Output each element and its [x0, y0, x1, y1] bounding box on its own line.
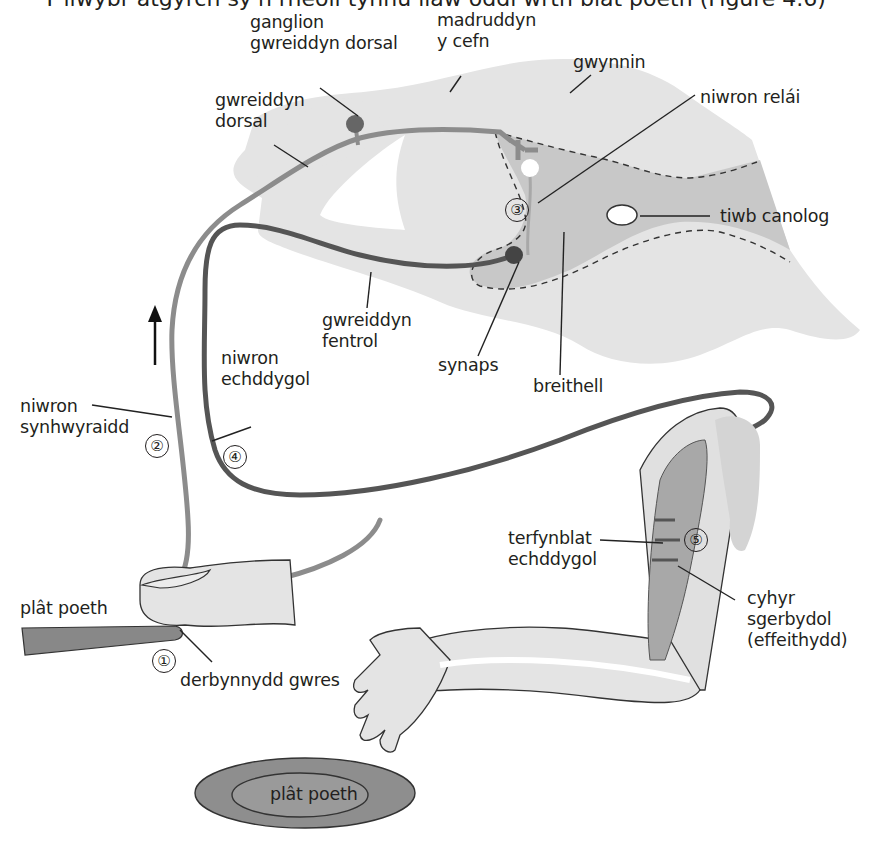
label-line: gwreiddyn: [322, 310, 412, 331]
step-4-marker: ④: [223, 445, 247, 469]
label-derbynnydd: derbynnydd gwres: [180, 670, 340, 691]
label-line: cyhyr: [747, 588, 848, 609]
label-gwreiddyn-dorsal: gwreiddyn dorsal: [215, 90, 305, 132]
step-1-marker: ①: [152, 649, 176, 673]
label-synaps: synaps: [438, 355, 498, 376]
label-line: synhwyraidd: [20, 417, 129, 438]
label-terfynblat: terfynblat echddygol: [508, 528, 597, 570]
step-5-marker: ⑤: [684, 528, 708, 552]
label-ganglion: ganglion gwreiddyn dorsal: [250, 12, 398, 54]
label-niwron-relai: niwron relái: [700, 87, 800, 108]
label-line: echddygol: [508, 549, 597, 570]
label-line: fentrol: [322, 331, 412, 352]
central-canal-shape: [607, 205, 637, 225]
label-niwron-echddygol: niwron echddygol: [221, 348, 310, 390]
label-plat-poeth-plate: plât poeth: [270, 784, 358, 805]
dorsal-root-ganglion: [346, 115, 364, 133]
label-line: (effeithydd): [747, 630, 848, 651]
finger: [140, 560, 295, 626]
label-niwron-synhwyraidd: niwron synhwyraidd: [20, 396, 129, 438]
motor-neuron-cell-body: [505, 246, 523, 264]
diagram-artwork: [0, 0, 869, 843]
label-gwreiddyn-fentrol: gwreiddyn fentrol: [322, 310, 412, 352]
hand: [354, 628, 450, 752]
label-line: gwreiddyn: [215, 90, 305, 111]
label-line: niwron: [221, 348, 310, 369]
label-gwynnin: gwynnin: [573, 52, 646, 73]
step-2-marker: ②: [145, 434, 169, 458]
label-line: madruddyn: [437, 10, 536, 31]
label-tiwb-canolog: tiwb canolog: [720, 206, 829, 227]
reflex-arc-diagram: Y llwybr atgyrch sy'n rheoli tynnu llaw …: [0, 0, 869, 843]
label-line: terfynblat: [508, 528, 597, 549]
label-line: ganglion: [250, 12, 398, 33]
label-breithell: breithell: [533, 376, 603, 397]
label-line: gwreiddyn dorsal: [250, 33, 398, 54]
label-madruddyn: madruddyn y cefn: [437, 10, 536, 52]
label-line: sgerbydol: [747, 609, 848, 630]
label-plat-poeth-side: plât poeth: [20, 598, 108, 619]
label-line: echddygol: [221, 369, 310, 390]
step-3-marker: ③: [505, 198, 529, 222]
label-line: dorsal: [215, 111, 305, 132]
label-line: y cefn: [437, 31, 536, 52]
label-cyhyr: cyhyr sgerbydol (effeithydd): [747, 588, 848, 651]
figure-title: Y llwybr atgyrch sy'n rheoli tynnu llaw …: [0, 0, 869, 11]
label-line: niwron: [20, 396, 129, 417]
